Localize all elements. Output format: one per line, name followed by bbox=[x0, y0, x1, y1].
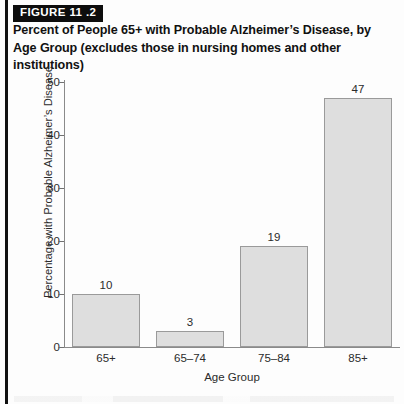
bar bbox=[324, 98, 391, 347]
y-tick-label: 20 bbox=[36, 235, 60, 247]
x-axis-title: Age Group bbox=[64, 371, 400, 383]
bar-chart: Percentage with Probable Alzheimer’s Dis… bbox=[0, 0, 404, 404]
x-tick-label: 85+ bbox=[316, 352, 400, 364]
cropped-caption-line bbox=[14, 396, 394, 402]
x-tick-label: 65–74 bbox=[148, 352, 232, 364]
y-tick-label: 40 bbox=[36, 129, 60, 141]
y-tick-label: 0 bbox=[36, 341, 60, 353]
bar-value-label: 10 bbox=[64, 279, 148, 291]
bar bbox=[156, 331, 223, 347]
bar-value-label: 3 bbox=[148, 316, 232, 328]
bar bbox=[72, 294, 139, 347]
x-tick-label: 65+ bbox=[64, 352, 148, 364]
y-tick-label: 30 bbox=[36, 182, 60, 194]
bar-value-label: 47 bbox=[316, 83, 400, 95]
x-axis-line bbox=[64, 347, 400, 348]
y-axis-tick-labels: 01020304050 bbox=[34, 0, 60, 404]
figure-page: FIGURE 11 .2 Percent of People 65+ with … bbox=[0, 0, 404, 404]
y-tick-label: 10 bbox=[36, 288, 60, 300]
bar bbox=[240, 246, 307, 347]
bar-value-label: 19 bbox=[232, 231, 316, 243]
y-tick-label: 50 bbox=[36, 76, 60, 88]
x-tick-label: 75–84 bbox=[232, 352, 316, 364]
y-axis-line bbox=[64, 80, 65, 348]
